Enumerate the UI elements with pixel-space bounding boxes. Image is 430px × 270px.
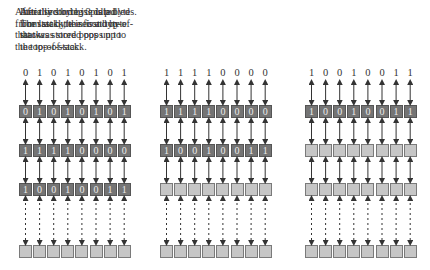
arrows-layer	[0, 0, 430, 270]
